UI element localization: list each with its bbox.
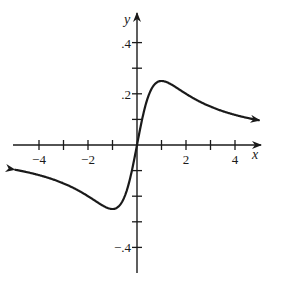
x-tick-label: 4 bbox=[232, 152, 239, 167]
y-tick-label: −.4 bbox=[114, 240, 132, 255]
y-axis-label: y bbox=[122, 12, 131, 27]
function-graph: −4−224.4.2−.4 x y bbox=[0, 0, 285, 288]
x-tick-label: −4 bbox=[32, 152, 46, 167]
y-tick-label: .4 bbox=[121, 36, 131, 51]
x-tick-label: −2 bbox=[81, 152, 95, 167]
x-tick-label: 2 bbox=[183, 152, 190, 167]
y-tick-label: .2 bbox=[121, 87, 131, 102]
x-axis-label: x bbox=[251, 147, 259, 162]
